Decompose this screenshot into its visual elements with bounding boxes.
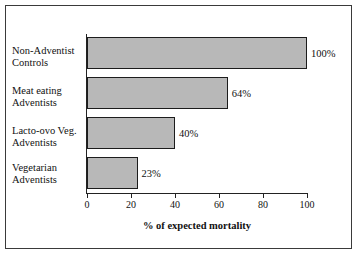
bar-value-0: 100%	[307, 48, 336, 59]
x-tick-80	[263, 194, 264, 198]
x-axis-title: % of expected mortality	[87, 220, 307, 231]
category-label-3-line2: Adventists	[12, 174, 88, 186]
x-tick-label-60: 60	[214, 199, 224, 210]
x-tick-label-40: 40	[170, 199, 180, 210]
chart-figure: Non-Adventist Controls Meat eating Adven…	[0, 0, 362, 261]
x-tick-100	[307, 194, 308, 198]
category-label-0-line2: Controls	[12, 57, 88, 69]
category-label-0-line1: Non-Adventist	[12, 45, 88, 57]
category-label-2: Lacto-ovo Veg. Adventists	[12, 125, 88, 148]
category-label-0: Non-Adventist Controls	[12, 45, 88, 68]
category-label-1: Meat eating Adventists	[12, 85, 88, 108]
x-tick-60	[219, 194, 220, 198]
bar-value-2: 40%	[175, 128, 198, 139]
x-tick-20	[131, 194, 132, 198]
bar-2	[87, 117, 175, 149]
category-label-3-line1: Vegetarian	[12, 162, 88, 174]
bar-3	[87, 157, 138, 189]
category-label-2-line2: Adventists	[12, 137, 88, 149]
x-tick-0	[87, 194, 88, 198]
category-label-2-line1: Lacto-ovo Veg.	[12, 125, 88, 137]
x-axis-line	[86, 193, 308, 194]
x-tick-label-100: 100	[300, 199, 315, 210]
category-label-3: Vegetarian Adventists	[12, 162, 88, 185]
bar-value-3: 23%	[138, 168, 161, 179]
bar-value-1: 64%	[228, 88, 251, 99]
x-tick-label-20: 20	[126, 199, 136, 210]
category-label-1-line1: Meat eating	[12, 85, 88, 97]
x-tick-label-0: 0	[85, 199, 90, 210]
plot-area: 100% 64% 40% 23%	[87, 36, 307, 192]
x-tick-label-80: 80	[258, 199, 268, 210]
bar-1	[87, 77, 228, 109]
bar-0	[87, 37, 307, 69]
x-tick-40	[175, 194, 176, 198]
category-label-1-line2: Adventists	[12, 97, 88, 109]
